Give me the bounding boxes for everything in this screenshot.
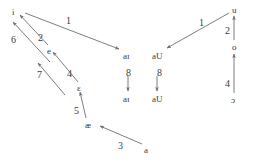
vowel-symbol-o-mid: o <box>232 43 237 52</box>
rule-label-rule-1-right: 1 <box>199 18 204 28</box>
vowel-symbol-i-top: i <box>12 8 15 17</box>
vowel-symbol-ae: æ <box>85 121 91 130</box>
arrow-7-to-e <box>38 63 65 95</box>
rule-label-rule-3: 3 <box>118 141 123 151</box>
arrow-u-to-aU <box>167 13 229 48</box>
vowel-symbol-open-o: ɔ <box>231 96 235 105</box>
arrow-eps-to-e <box>53 52 78 82</box>
rule-label-rule-2-right: 2 <box>225 26 230 36</box>
rule-label-rule-2-left: 2 <box>38 33 43 43</box>
vowel-symbol-e-mid: e <box>47 47 51 56</box>
rule-label-rule-1-left: 1 <box>66 16 71 26</box>
vowel-symbol-eps: ɛ <box>77 84 81 93</box>
rule-label-rule-5: 5 <box>74 106 79 116</box>
vowel-shift-diagram: ieɛæaaɪaɪaUaUuoɔ 162745388124 <box>0 0 254 163</box>
arrow-e-to-i <box>20 15 48 45</box>
arrow-ae-to-eps <box>80 92 86 118</box>
vowel-symbol-a-low: a <box>144 146 148 155</box>
vowel-symbol-ai-lower: aɪ <box>123 95 130 104</box>
rule-label-rule-8-right: 8 <box>157 68 162 78</box>
vowel-symbol-aU-upper: aU <box>152 52 163 61</box>
vowel-symbol-u-top: u <box>232 6 237 15</box>
rule-label-rule-4-left: 4 <box>67 69 72 79</box>
arrow-long-to-i <box>13 22 50 62</box>
arrow-layer <box>0 0 254 163</box>
arrow-i-to-ai <box>25 13 119 49</box>
rule-label-rule-7: 7 <box>37 70 42 80</box>
vowel-symbol-aU-lower: aU <box>152 95 163 104</box>
rule-label-rule-8-left: 8 <box>126 68 131 78</box>
rule-label-rule-6: 6 <box>11 35 16 45</box>
vowel-symbol-ai-upper: aɪ <box>123 52 130 61</box>
rule-label-rule-4-right: 4 <box>225 79 230 89</box>
